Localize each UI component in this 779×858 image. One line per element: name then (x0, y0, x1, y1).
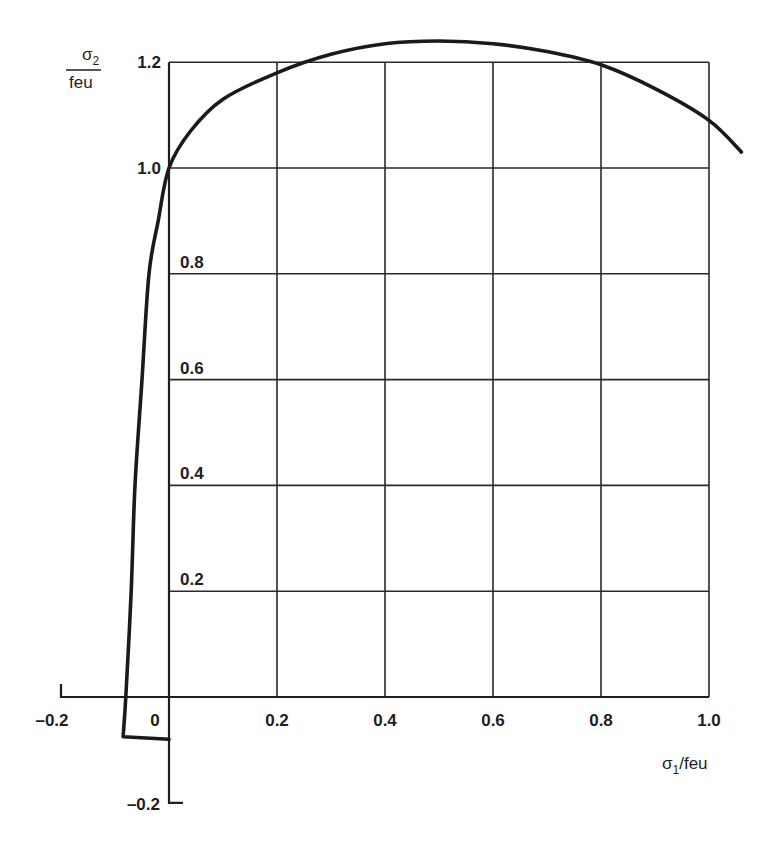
y-tick-label: 0.6 (180, 359, 204, 378)
y-axis-label: σ2 feu (66, 45, 101, 92)
x-tick-label: 1.0 (697, 711, 721, 730)
failure-envelope-curve (123, 41, 741, 739)
x-tick-label: 0.4 (373, 711, 397, 730)
y-axis-label-denominator: feu (69, 73, 93, 92)
y-tick-label: 1.0 (137, 159, 161, 178)
x-axis-label: σ1/feu (662, 754, 708, 777)
x-tick-label: 0.8 (589, 711, 613, 730)
x-tick-labels: –0.200.20.40.60.81.0 (35, 711, 720, 730)
y-tick-label: 0.4 (180, 464, 204, 483)
y-tick-label: 0.2 (180, 570, 204, 589)
y-axis-label-numerator: σ2 (82, 45, 100, 68)
x-tick-label: 0.2 (265, 711, 289, 730)
x-tick-label: –0.2 (35, 711, 68, 730)
x-tick-label: 0.6 (481, 711, 505, 730)
grid-lines (169, 62, 709, 697)
x-tick-label: 0 (150, 711, 159, 730)
biaxial-strength-chart: –0.200.20.40.60.81.0 –0.20.20.40.60.81.0… (0, 0, 779, 858)
y-axis-line (169, 62, 183, 803)
y-tick-label: 1.2 (137, 53, 161, 72)
y-tick-label: –0.2 (127, 795, 160, 814)
y-tick-label: 0.8 (180, 253, 204, 272)
